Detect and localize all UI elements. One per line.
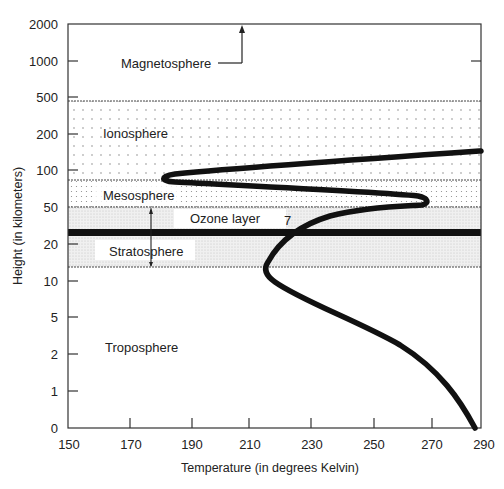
svg-text:170: 170 <box>120 437 142 452</box>
magnetosphere-label: Magnetosphere <box>121 56 211 71</box>
svg-text:230: 230 <box>301 437 323 452</box>
svg-text:100: 100 <box>36 163 58 178</box>
svg-text:270: 270 <box>421 437 443 452</box>
svg-text:150: 150 <box>58 437 80 452</box>
stratosphere-label: Stratosphere <box>109 244 183 259</box>
mesosphere-label: Mesosphere <box>103 188 175 203</box>
thick-layer-line <box>68 229 481 236</box>
svg-text:20: 20 <box>44 237 58 252</box>
svg-text:10: 10 <box>44 274 58 289</box>
svg-text:250: 250 <box>363 437 385 452</box>
svg-text:0: 0 <box>51 421 58 436</box>
ionosphere-label: Ionosphere <box>103 126 168 141</box>
y-axis-title: Height (in kilometers) <box>11 167 25 285</box>
x-ticks <box>130 418 432 428</box>
svg-text:1: 1 <box>51 384 58 399</box>
atmosphere-chart: 2000 1000 500 200 100 50 20 10 5 2 1 0 1… <box>0 0 504 489</box>
svg-text:2: 2 <box>51 347 58 362</box>
x-axis-title: Temperature (in degrees Kelvin) <box>181 461 359 475</box>
y-tick-labels: 2000 1000 500 200 100 50 20 10 5 2 1 0 <box>29 17 58 436</box>
svg-text:500: 500 <box>36 90 58 105</box>
magnetosphere-arrow <box>218 30 242 63</box>
svg-text:190: 190 <box>181 437 203 452</box>
svg-text:210: 210 <box>239 437 261 452</box>
ozone-label: Ozone layer <box>190 211 261 226</box>
svg-text:290: 290 <box>473 437 495 452</box>
svg-text:50: 50 <box>44 200 58 215</box>
troposphere-label: Troposphere <box>105 340 178 355</box>
seven-annotation: 7 <box>284 213 291 228</box>
svg-text:5: 5 <box>51 310 58 325</box>
svg-text:200: 200 <box>36 127 58 142</box>
svg-text:1000: 1000 <box>29 54 58 69</box>
x-tick-labels: 150 170 190 210 230 250 270 290 <box>58 437 495 452</box>
svg-text:2000: 2000 <box>29 17 58 32</box>
